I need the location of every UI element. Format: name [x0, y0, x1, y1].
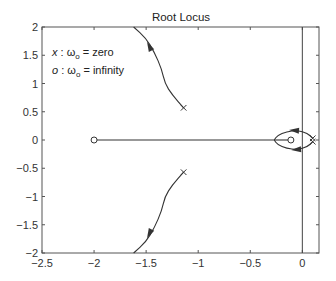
y-tick-label: 1: [32, 78, 38, 90]
chart-title: Root Locus: [152, 11, 210, 23]
y-tick-label: 0: [32, 134, 38, 146]
zero-o-marker: [288, 137, 294, 143]
y-tick-label: −2: [25, 247, 38, 259]
root-locus-chart: Root Locus −2.5−2−1.5−1−0.50 21.510.50−0…: [0, 0, 336, 281]
y-tick-label: 1.5: [23, 49, 38, 61]
y-tick-label: 2: [32, 21, 38, 33]
y-tick-label: −0.5: [16, 162, 38, 174]
zero-o-marker: [91, 137, 97, 143]
y-tick-label: 0.5: [23, 106, 38, 118]
y-tick-label: −1.5: [16, 219, 38, 231]
x-tick-label: −1: [192, 257, 205, 269]
y-tick-label: −1: [25, 191, 38, 203]
x-tick-label: 0: [299, 257, 305, 269]
x-tick-label: −1.5: [135, 257, 157, 269]
x-tick-label: −2: [88, 257, 101, 269]
x-tick-label: −0.5: [239, 257, 261, 269]
